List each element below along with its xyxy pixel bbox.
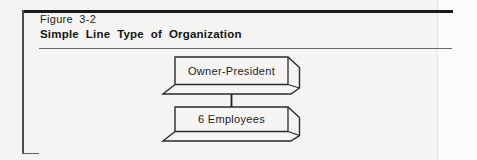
employees-label: 6 Employees	[175, 107, 288, 131]
owner-president-label: Owner-President	[175, 57, 288, 84]
